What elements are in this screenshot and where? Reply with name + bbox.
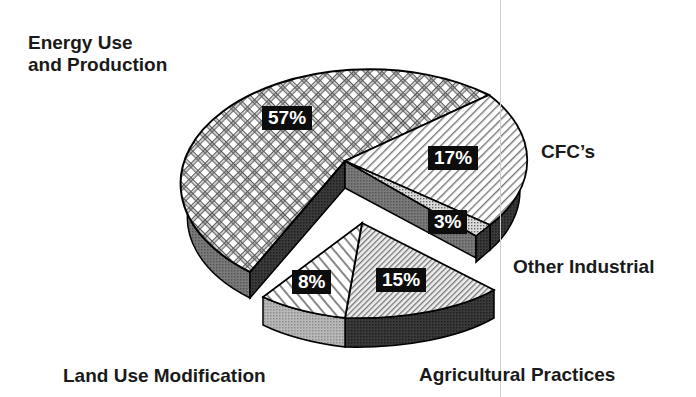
pct-other-industrial: 3% <box>428 210 467 234</box>
label-other-industrial: Other Industrial <box>513 256 654 278</box>
pct-energy: 57% <box>262 106 312 130</box>
label-energy: Energy Use and Production <box>28 32 167 76</box>
label-energy-line1: Energy Use <box>28 32 167 54</box>
pct-cfc: 17% <box>428 146 478 170</box>
label-land-use: Land Use Modification <box>63 365 266 387</box>
pct-agricultural: 15% <box>376 268 426 292</box>
label-energy-line2: and Production <box>28 54 167 76</box>
label-cfc: CFC’s <box>541 141 595 163</box>
scan-artifact <box>500 0 501 397</box>
label-agricultural: Agricultural Practices <box>419 364 615 386</box>
pct-land-use: 8% <box>292 270 331 294</box>
